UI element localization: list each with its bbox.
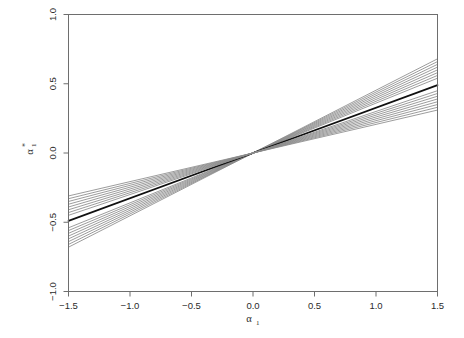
y-tick-label: −0.5 <box>47 213 58 232</box>
x-tick-label: 1.0 <box>369 300 382 311</box>
figure-background <box>0 0 464 338</box>
y-tick-label: 1.0 <box>47 8 58 21</box>
x-tick-label: −1.5 <box>59 300 78 311</box>
y-axis-title-superscript: * <box>21 143 30 147</box>
x-tick-label: −0.5 <box>182 300 201 311</box>
x-tick-label: 1.5 <box>431 300 444 311</box>
y-tick-label: −1.0 <box>47 282 58 301</box>
x-axis-title-base: α <box>246 313 252 324</box>
y-axis-title-subscript: 1 <box>30 143 38 147</box>
plot-canvas: −1.5−1.0−0.50.00.51.01.5 −1.0−0.50.00.51… <box>0 0 464 338</box>
y-tick-label: 0.0 <box>47 146 58 159</box>
x-tick-label: 0.0 <box>246 300 259 311</box>
y-tick-label: 0.5 <box>47 77 58 90</box>
x-tick-label: −1.0 <box>121 300 140 311</box>
figure-root: −1.5−1.0−0.50.00.51.01.5 −1.0−0.50.00.51… <box>0 0 464 338</box>
y-axis-title-base: α <box>24 149 35 155</box>
x-axis-title-subscript: 1 <box>256 319 260 327</box>
x-tick-label: 0.5 <box>308 300 321 311</box>
